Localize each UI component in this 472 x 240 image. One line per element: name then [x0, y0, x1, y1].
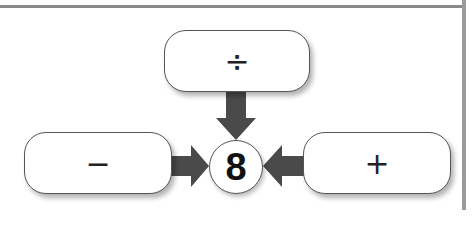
divide-symbol: ÷ [224, 44, 249, 79]
divide-box: ÷ [164, 30, 310, 92]
down-arrow-icon [216, 92, 256, 140]
minus-symbol: − [85, 146, 110, 181]
right-arrow-icon [171, 145, 209, 187]
plus-box: + [303, 132, 451, 194]
minus-box: − [24, 132, 172, 194]
center-value: 8 [225, 146, 246, 189]
center-value-circle: 8 [209, 140, 263, 194]
plus-symbol: + [364, 146, 389, 181]
left-arrow-icon [263, 145, 304, 187]
